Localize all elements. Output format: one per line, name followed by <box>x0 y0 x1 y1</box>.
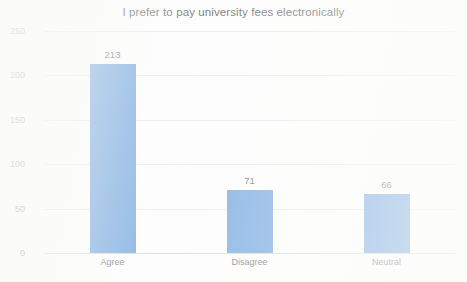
gridline <box>44 31 455 32</box>
y-axis-tick-label: 50 <box>0 204 25 214</box>
y-axis-tick-label: 200 <box>0 70 25 80</box>
plot-area: 2137166 <box>44 31 455 253</box>
x-axis-tick-label-disagree: Disagree <box>231 257 267 267</box>
bar-value-label-neutral: 66 <box>352 179 422 190</box>
y-axis-tick-label: 100 <box>0 159 25 169</box>
bar-disagree[interactable] <box>227 190 273 253</box>
y-axis-tick-label: 150 <box>0 115 25 125</box>
x-axis-tick-label-agree: Agree <box>100 257 124 267</box>
x-axis-tick-label-neutral: Neutral <box>372 257 401 267</box>
chart-title: I prefer to pay university fees electron… <box>0 6 467 18</box>
bar-value-label-disagree: 71 <box>215 175 285 186</box>
bar-agree[interactable] <box>90 64 136 253</box>
bar-neutral[interactable] <box>364 194 410 253</box>
gridline <box>44 253 455 254</box>
y-axis-tick-label: 250 <box>0 26 25 36</box>
bar-value-label-agree: 213 <box>78 49 148 60</box>
y-axis-tick-label: 0 <box>0 248 25 258</box>
bar-chart-figure: I prefer to pay university fees electron… <box>0 0 467 282</box>
